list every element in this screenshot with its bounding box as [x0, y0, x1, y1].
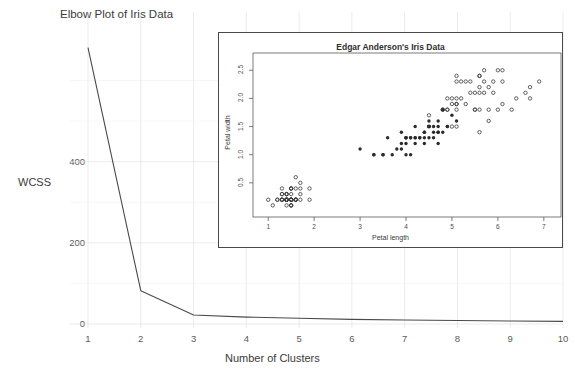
chart-canvas: Elbow Plot of Iris Data WCSS Number of C… — [0, 0, 575, 376]
iris-scatter-plot — [219, 33, 564, 249]
iris-scatter-panel: Edgar Anderson's Iris Data Petal length … — [218, 32, 563, 248]
